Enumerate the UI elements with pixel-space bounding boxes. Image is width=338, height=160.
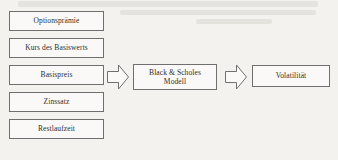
output-box-volatilitaet: Volatilität <box>252 65 330 87</box>
model-box-line1: Black & Scholes <box>149 68 201 77</box>
input-box-kurs-des-basiswerts: Kurs des Basiswerts <box>9 38 104 58</box>
input-box-zinssatz: Zinssatz <box>9 92 104 112</box>
input-box-label: Optionsprämie <box>34 16 80 25</box>
input-box-basispreis: Basispreis <box>9 65 104 85</box>
input-box-label: Zinssatz <box>44 97 70 106</box>
input-box-label: Restlaufzeit <box>38 124 75 133</box>
input-box-label: Basispreis <box>41 70 73 79</box>
input-box-optionspraemie: Optionsprämie <box>9 11 104 31</box>
flow-diagram: Optionsprämie Kurs des Basiswerts Basisp… <box>0 0 338 160</box>
output-box-label: Volatilität <box>276 71 307 80</box>
right-arrow-icon <box>106 62 130 92</box>
model-box-line2: Modell <box>164 77 186 86</box>
input-box-label: Kurs des Basiswerts <box>25 43 88 52</box>
input-box-restlaufzeit: Restlaufzeit <box>9 119 104 139</box>
model-box-black-scholes: Black & Scholes Modell <box>133 64 217 90</box>
model-box-text: Black & Scholes Modell <box>137 68 213 87</box>
right-arrow-icon <box>224 62 248 92</box>
